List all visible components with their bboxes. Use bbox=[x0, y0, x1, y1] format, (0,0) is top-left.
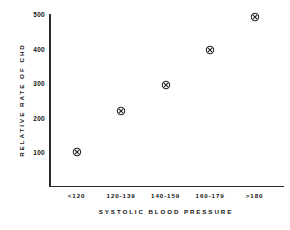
chart-figure: RELATIVE RATE OF CHD 100200300400500 <12… bbox=[0, 0, 290, 230]
x-tick-label: 120-139 bbox=[107, 192, 136, 199]
y-tick-label: 200 bbox=[33, 114, 45, 121]
plot-area: 100200300400500 <120120-139140-159160-17… bbox=[49, 14, 284, 187]
data-point-marker bbox=[71, 147, 82, 158]
y-tick-label: 100 bbox=[33, 149, 45, 156]
x-axis-title: SYSTOLIC BLOOD PRESSURE bbox=[48, 208, 284, 215]
x-tick-label: 140-159 bbox=[151, 192, 180, 199]
y-tick-label: 400 bbox=[33, 45, 45, 52]
data-point-marker bbox=[160, 79, 171, 90]
data-point-marker bbox=[205, 45, 216, 56]
x-tick-label: <120 bbox=[68, 192, 86, 199]
x-axis-line bbox=[49, 186, 284, 187]
y-tick-label: 300 bbox=[33, 80, 45, 87]
x-tick-label: >180 bbox=[246, 192, 264, 199]
data-point-marker bbox=[116, 105, 127, 116]
x-tick-label: 160-179 bbox=[196, 192, 225, 199]
y-axis-line bbox=[49, 14, 51, 187]
y-tick-label: 500 bbox=[33, 11, 45, 18]
y-axis-title: RELATIVE RATE OF CHD bbox=[14, 5, 28, 195]
data-point-marker bbox=[249, 12, 260, 23]
